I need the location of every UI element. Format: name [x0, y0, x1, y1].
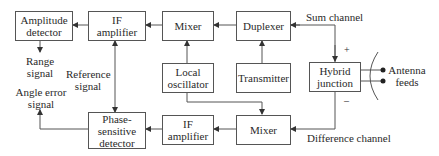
hybrid-junction-block: Hybrid junction — [309, 62, 361, 92]
minus-sign: – — [344, 96, 349, 106]
sum-channel-label: Sum channel — [306, 11, 363, 23]
mixer-top-block: Mixer — [162, 11, 214, 41]
antenna-feed-dot-1 — [381, 68, 386, 73]
if-amplifier-top-block: IF amplifier — [88, 11, 146, 41]
mixer-top-label: Mixer — [175, 20, 202, 32]
local-oscillator-label: Local oscillator — [164, 66, 212, 90]
if-amplifier-top-label: IF amplifier — [95, 14, 139, 38]
local-oscillator-block: Local oscillator — [162, 63, 214, 93]
plus-sign: + — [344, 45, 350, 55]
range-signal-label: Range signal — [22, 55, 58, 79]
duplexer-label: Duplexer — [243, 20, 284, 32]
transmitter-label: Transmitter — [238, 72, 289, 84]
antenna-feeds-label: Antenna feeds — [387, 64, 427, 88]
angle-error-signal-label: Angle error signal — [14, 86, 68, 110]
hybrid-junction-label: Hybrid junction — [312, 65, 358, 89]
duplexer-block: Duplexer — [236, 11, 291, 41]
phase-sensitive-detector-label: Phase-sensitive detector — [92, 113, 142, 149]
phase-sensitive-detector-block: Phase-sensitive detector — [88, 112, 146, 149]
amplitude-detector-block: Amplitude detector — [15, 11, 73, 41]
if-amplifier-bottom-block: IF amplifier — [162, 115, 214, 145]
transmitter-block: Transmitter — [236, 63, 291, 93]
if-amplifier-bottom-label: IF amplifier — [166, 118, 210, 142]
reference-signal-label: Reference signal — [66, 68, 110, 92]
mixer-bottom-block: Mixer — [236, 115, 291, 145]
mixer-bottom-label: Mixer — [250, 124, 277, 136]
difference-channel-label: Difference channel — [307, 132, 391, 144]
amplitude-detector-label: Amplitude detector — [19, 14, 69, 38]
antenna-feed-dot-2 — [381, 79, 386, 84]
